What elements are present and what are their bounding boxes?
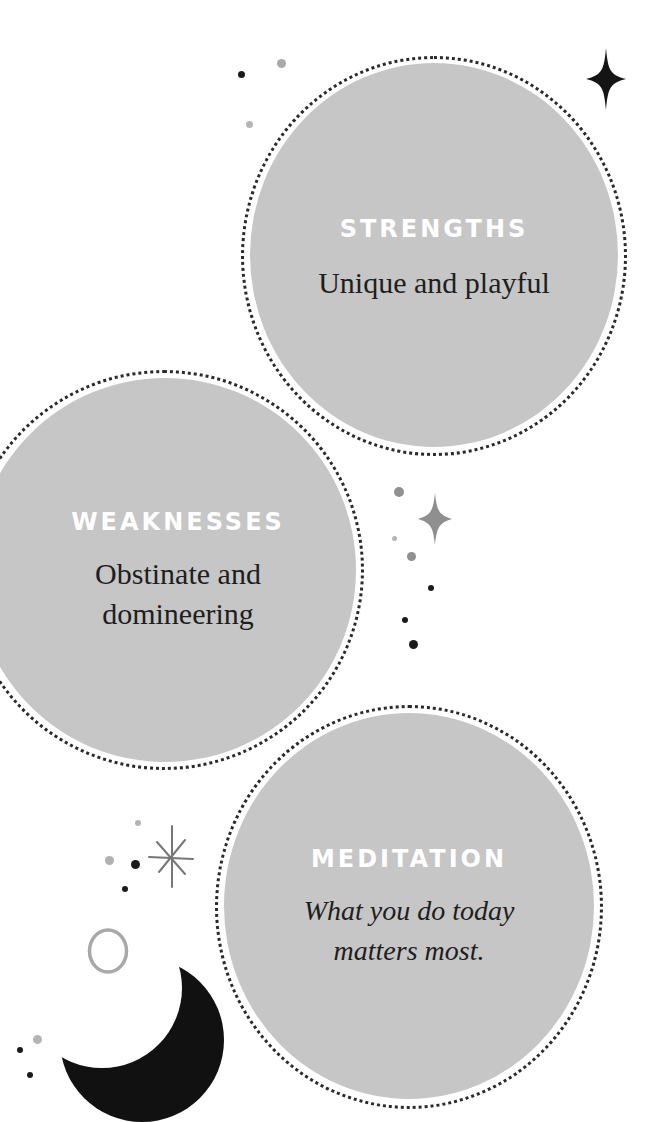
dot [246, 121, 253, 128]
meditation-line-2: matters most. [224, 931, 594, 971]
meditation-line-1: What you do today [224, 891, 594, 931]
dot [27, 1072, 33, 1078]
four-point-star-icon [418, 493, 452, 545]
weaknesses-heading: WEAKNESSES [0, 508, 356, 536]
dot [135, 820, 141, 826]
strengths-text: Unique and playful [250, 263, 618, 303]
weaknesses-text: Obstinate and domineering [0, 554, 356, 634]
asterisk-star-icon [149, 826, 195, 888]
strengths-disc: STRENGTHS Unique and playful [250, 63, 618, 447]
dot [428, 585, 434, 591]
dot [392, 536, 397, 541]
dot [409, 640, 418, 649]
dot [407, 552, 416, 561]
dot [277, 59, 286, 68]
dot [105, 856, 114, 865]
meditation-heading: MEDITATION [224, 845, 594, 873]
dot [402, 617, 408, 623]
dot [131, 860, 140, 869]
meditation-disc: MEDITATION What you do today matters mos… [224, 713, 594, 1099]
dot [394, 487, 404, 497]
crescent-moon-icon [40, 930, 240, 1122]
dot [17, 1047, 23, 1053]
weaknesses-line-2: domineering [0, 594, 356, 634]
meditation-text: What you do today matters most. [224, 891, 594, 971]
dot [33, 1035, 42, 1044]
four-point-star-icon [586, 48, 626, 110]
dot [122, 886, 128, 892]
weaknesses-line-1: Obstinate and [0, 554, 356, 594]
dot [238, 71, 245, 78]
strengths-heading: STRENGTHS [250, 215, 618, 243]
